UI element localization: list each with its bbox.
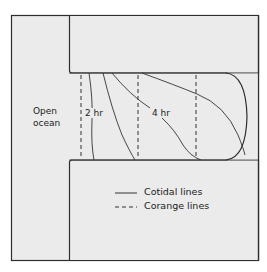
tidal-channel-diagram bbox=[0, 0, 267, 272]
hour-4-label: 4 hr bbox=[152, 108, 170, 118]
legend-corange-label: Corange lines bbox=[144, 201, 209, 211]
land-block-top bbox=[70, 16, 259, 74]
open-ocean-line1: Open bbox=[33, 106, 60, 116]
open-ocean-line2: ocean bbox=[33, 118, 60, 128]
open-ocean-label: Open ocean bbox=[33, 106, 60, 128]
hour-2-label: 2 hr bbox=[85, 108, 103, 118]
legend-cotidal-label: Cotidal lines bbox=[144, 187, 202, 197]
